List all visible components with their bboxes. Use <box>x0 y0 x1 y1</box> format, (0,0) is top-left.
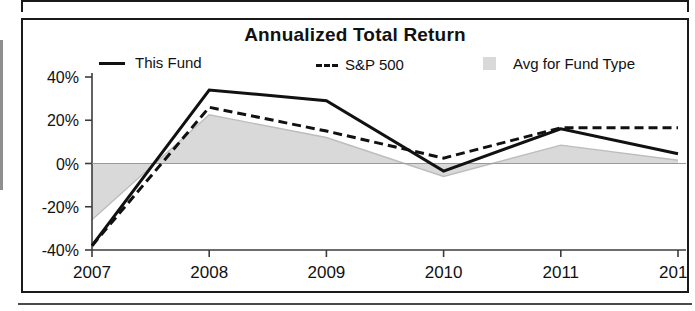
chart-axes <box>85 73 686 257</box>
series-this-fund <box>92 90 678 246</box>
y-tick-label: 0% <box>56 156 79 173</box>
scan-edge-artifact <box>0 40 3 190</box>
scan-fragment-box-above <box>21 0 689 12</box>
y-tick-label: -20% <box>42 199 79 216</box>
annualized-total-return-chart-panel: Annualized Total Return This Fund S&P 50… <box>21 18 689 293</box>
y-tick-label: -40% <box>42 242 79 259</box>
y-tick-label: 20% <box>47 112 79 129</box>
x-tick-label: 2010 <box>425 263 463 282</box>
x-tick-label: 2012 <box>659 263 687 282</box>
x-axis-tick-labels: 200720082009201020112012YTD <box>73 263 687 282</box>
y-axis-tick-labels: 40%20%0%-20%-40% <box>42 69 79 259</box>
x-tick-label: 2011 <box>543 263 580 282</box>
x-tick-label: 2007 <box>73 263 111 282</box>
chart-plot-area: 40%20%0%-20%-40% 20072008200920102011201… <box>23 20 687 291</box>
x-tick-label: 2008 <box>190 263 228 282</box>
x-tick-label: 2009 <box>307 263 345 282</box>
page-bottom-rule <box>18 303 692 305</box>
y-tick-label: 40% <box>47 69 79 86</box>
